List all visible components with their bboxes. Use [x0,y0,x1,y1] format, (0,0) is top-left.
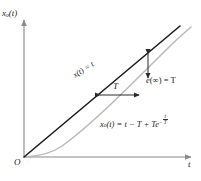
exponent-denominator: T [163,120,168,125]
y-axis-label: xo(t) [2,9,17,19]
reference-ramp-line [24,26,180,157]
x-axis-label: t [188,160,191,169]
output-equation-exponent-fraction: tT [163,114,168,126]
output-equation-body: (t) = t − T + T [106,119,155,129]
origin-label: O [14,158,21,167]
output-response-curve [24,27,191,157]
time-constant-label: T [113,82,118,91]
figure-canvas [0,0,201,181]
steady-state-error-label: e(∞) = T [146,76,176,85]
y-axis-label-arg: (t) [9,8,18,18]
output-equation-label: xo(t) = t − T + Te−tT [100,116,168,129]
ramp-response-figure: xo(t) t O x(t) = t T e(∞) = T xo(t) = t … [0,0,201,181]
steady-state-error-arg: (∞) = T [150,75,176,85]
